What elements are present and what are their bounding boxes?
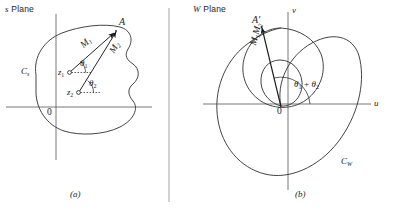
figure-container: s Plane Cs 0 A M1 M2 z1 z2 θ1 θ2 (a) W P… (0, 0, 394, 210)
s-plane-origin-label: 0 (47, 108, 52, 118)
zero-z1-subscript: 1 (61, 72, 64, 78)
w-plane-title: W Plane (193, 5, 226, 14)
w-plane-title-symbol: W (193, 4, 201, 14)
angle-theta1-subscript: 1 (84, 63, 87, 69)
s-plane-contour-label: Cs (21, 67, 29, 77)
zero-z2-subscript: 2 (70, 92, 73, 98)
panel-b-caption: (b) (295, 190, 306, 199)
w-plane-contour-outer-loop (217, 28, 362, 176)
zero-z1-marker (68, 71, 72, 75)
zero-z1-label: z1 (58, 68, 64, 78)
s-plane-title-word: Plane (9, 4, 34, 14)
angle-theta2-label: θ2 (89, 79, 96, 89)
angle-theta1-label: θ1 (80, 59, 87, 69)
w-contour-label-subscript: W (347, 161, 352, 167)
zero-z2-label: z2 (67, 88, 73, 98)
w-plane-contour-label: CW (341, 157, 352, 167)
contour-label-subscript: s (27, 71, 29, 77)
figure-vector-graphics (0, 0, 394, 210)
point-a-label: A (119, 17, 125, 27)
zero-z2-marker (77, 91, 81, 95)
s-plane-title: s Plane (5, 5, 34, 14)
angle-theta2-subscript: 2 (93, 83, 96, 89)
w-plane-u-axis-label: u (374, 99, 379, 108)
w-plane-title-word: Plane (201, 4, 226, 14)
panel-a-caption: (a) (70, 190, 81, 199)
vector-m1-arrow (70, 33, 114, 72)
point-a-marker (115, 30, 117, 32)
angle-theta-sum-label: θ1+θ2 (294, 80, 319, 90)
w-plane-origin-label: 0 (277, 107, 282, 117)
angle-sum-theta2-subscript: 2 (316, 84, 319, 90)
angle-sum-plus-operator: + (301, 79, 311, 89)
w-plane-v-axis-label: v (292, 6, 296, 15)
